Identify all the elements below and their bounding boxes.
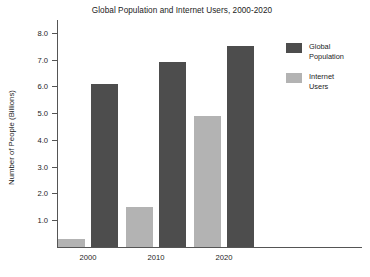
y-axis-tick-label-wrapper: 1.0 xyxy=(14,220,48,221)
y-axis-tick xyxy=(52,113,57,114)
y-axis-tick xyxy=(52,193,57,194)
y-axis-tick-label: 2.0 xyxy=(14,189,48,198)
chart-legend: Global PopulationInternet Users xyxy=(286,42,366,102)
y-axis-tick xyxy=(52,33,57,34)
bar xyxy=(58,239,85,247)
legend-label: Internet Users xyxy=(309,72,334,91)
chart-figure: Global Population and Internet Users, 20… xyxy=(0,0,370,277)
bar xyxy=(126,207,153,247)
bar xyxy=(159,62,186,247)
y-axis-tick-label-wrapper: 4.0 xyxy=(14,140,48,141)
y-axis-tick-label-wrapper: 5.0 xyxy=(14,113,48,114)
y-axis-tick-label: 1.0 xyxy=(14,216,48,225)
legend-item: Internet Users xyxy=(286,72,366,91)
x-axis-tick-label: 2000 xyxy=(80,253,97,262)
y-axis-tick-label-wrapper: 2.0 xyxy=(14,193,48,194)
x-axis-tick-label: 2010 xyxy=(148,253,165,262)
bars-layer xyxy=(58,22,286,247)
legend-swatch xyxy=(286,43,302,53)
y-axis-tick xyxy=(52,86,57,87)
y-axis-tick xyxy=(52,167,57,168)
y-axis-tick-label: 5.0 xyxy=(14,109,48,118)
legend-swatch xyxy=(286,73,302,83)
y-axis-tick xyxy=(52,220,57,221)
y-axis-tick-label: 4.0 xyxy=(14,135,48,144)
y-axis-tick-label-wrapper: 6.0 xyxy=(14,86,48,87)
y-axis-tick-label-wrapper: 3.0 xyxy=(14,167,48,168)
y-axis-tick-label: 6.0 xyxy=(14,82,48,91)
x-axis-tick-label: 2020 xyxy=(216,253,233,262)
bar xyxy=(91,84,118,247)
y-axis-tick-label-wrapper: 7.0 xyxy=(14,60,48,61)
y-axis-tick xyxy=(52,60,57,61)
legend-item: Global Population xyxy=(286,42,366,61)
x-axis-line xyxy=(57,247,362,248)
chart-title: Global Population and Internet Users, 20… xyxy=(62,6,302,15)
y-axis-tick-label-wrapper: 8.0 xyxy=(14,33,48,34)
y-axis-title: Number of People (Billions) xyxy=(7,63,16,213)
legend-label: Global Population xyxy=(309,42,344,61)
bar xyxy=(227,46,254,247)
y-axis-tick-label: 8.0 xyxy=(14,28,48,37)
y-axis-tick-label: 3.0 xyxy=(14,162,48,171)
y-axis-tick xyxy=(52,140,57,141)
y-axis-tick-label: 7.0 xyxy=(14,55,48,64)
bar xyxy=(194,116,221,247)
